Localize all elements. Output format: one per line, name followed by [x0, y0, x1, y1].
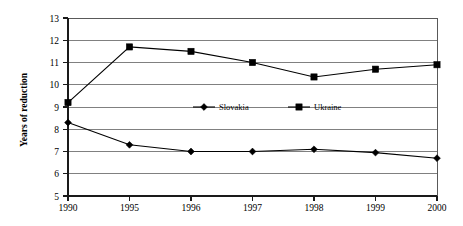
y-tick-label-13: 13 [50, 14, 60, 24]
data-point-slovakia-1996 [188, 148, 195, 155]
x-tick-label-1998: 1998 [305, 203, 324, 213]
series-line-ukraine [68, 47, 437, 103]
line-chart: Years of reduction 13 [0, 0, 463, 226]
y-tick-label-12: 12 [50, 36, 60, 46]
legend-entry-slovakia[interactable]: Slovakia [193, 102, 249, 112]
y-axis-tick-labels: 13 12 11 10 9 8 7 6 5 [50, 14, 60, 202]
data-point-slovakia-1997 [249, 148, 256, 155]
x-tick-label-1999: 1999 [366, 203, 385, 213]
legend-marker-ukraine [296, 104, 302, 110]
y-tick-label-11: 11 [50, 58, 59, 68]
legend-label-ukraine: Ukraine [314, 102, 342, 112]
y-tick-label-8: 8 [54, 125, 59, 135]
data-point-ukraine-1997 [249, 59, 255, 65]
y-tick-label-6: 6 [54, 169, 59, 179]
data-point-slovakia-1999 [372, 149, 379, 156]
data-point-ukraine-1998 [311, 74, 317, 80]
y-tick-label-5: 5 [54, 192, 59, 202]
x-tick-label-1996: 1996 [182, 203, 201, 213]
x-tick-label-1997: 1997 [243, 203, 262, 213]
data-point-ukraine-1990 [65, 99, 71, 105]
y-tick-label-10: 10 [50, 80, 60, 90]
legend-marker-slovakia [201, 104, 208, 111]
chart-canvas: Years of reduction 13 [0, 0, 463, 226]
data-point-ukraine-1996 [188, 48, 194, 54]
y-tick-label-7: 7 [54, 147, 59, 157]
data-point-slovakia-1990 [65, 119, 72, 126]
x-axis-ticks [68, 196, 437, 201]
data-point-ukraine-2000 [434, 62, 440, 68]
legend-entry-ukraine[interactable]: Ukraine [288, 102, 342, 112]
series-ukraine [65, 44, 440, 106]
data-point-slovakia-2000 [434, 155, 441, 162]
data-point-slovakia-1995 [126, 141, 133, 148]
y-axis-title: Years of reduction [19, 72, 29, 147]
legend-label-slovakia: Slovakia [219, 102, 249, 112]
data-point-ukraine-1999 [372, 66, 378, 72]
x-tick-label-1995: 1995 [120, 203, 139, 213]
x-tick-label-1990: 1990 [59, 203, 78, 213]
series-slovakia [65, 119, 441, 161]
data-series-layer [65, 44, 441, 162]
x-axis-tick-labels: 1990 1995 1996 1997 1998 1999 2000 [59, 203, 447, 213]
y-tick-label-9: 9 [54, 103, 59, 113]
x-tick-label-2000: 2000 [428, 203, 447, 213]
data-point-ukraine-1995 [126, 44, 132, 50]
y-axis-ticks [63, 18, 68, 196]
